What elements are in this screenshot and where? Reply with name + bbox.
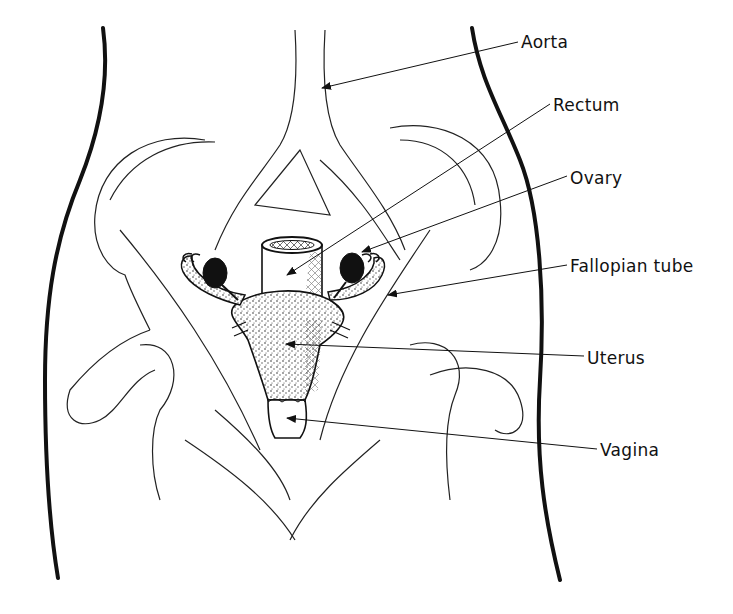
label-fallopian-tube: Fallopian tube bbox=[570, 256, 693, 276]
anatomy-diagram bbox=[0, 0, 733, 614]
label-uterus: Uterus bbox=[587, 348, 645, 368]
aorta-vessel bbox=[215, 30, 405, 260]
label-vagina: Vagina bbox=[600, 440, 659, 460]
label-rectum: Rectum bbox=[553, 95, 620, 115]
leader-lines bbox=[286, 42, 597, 449]
label-ovary: Ovary bbox=[570, 168, 622, 188]
label-aorta: Aorta bbox=[521, 32, 568, 52]
